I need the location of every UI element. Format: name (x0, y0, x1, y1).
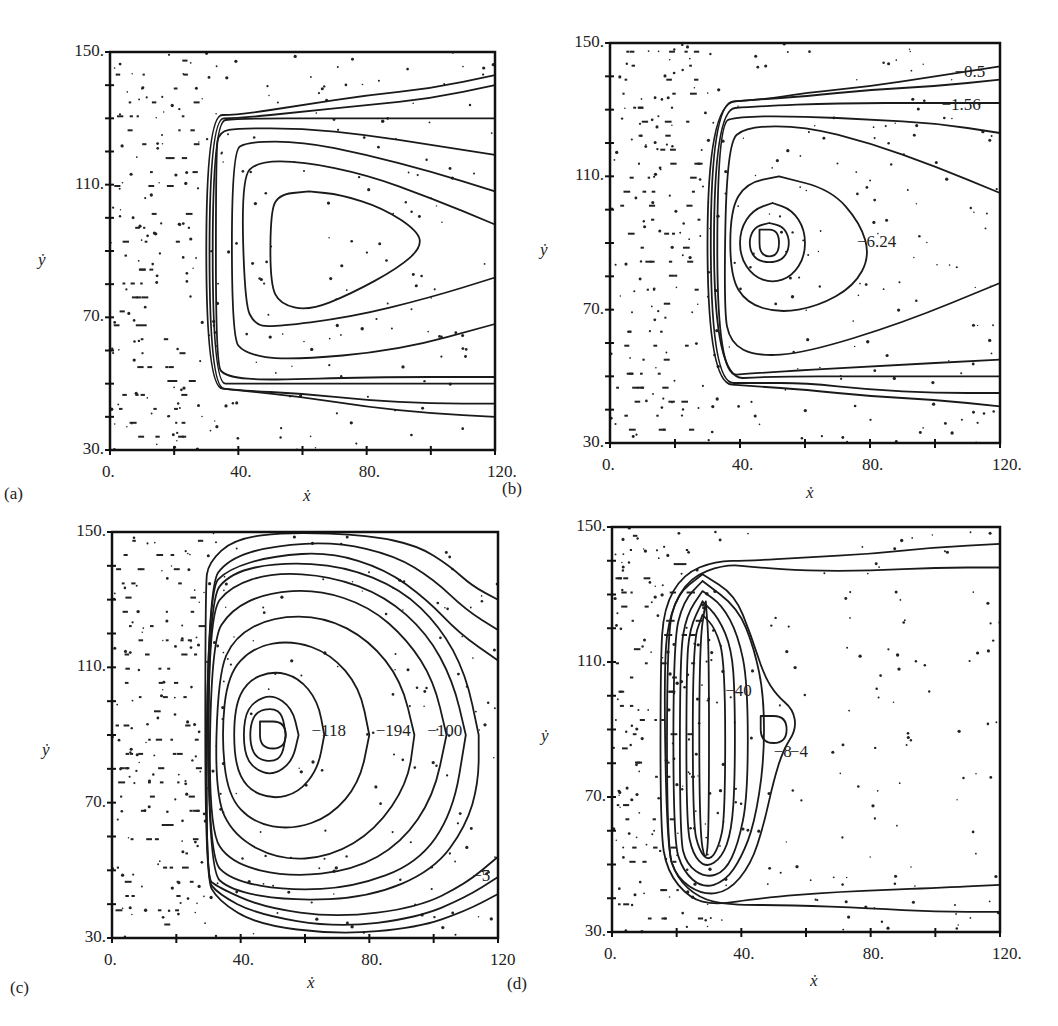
contour-line (760, 230, 780, 257)
x-tick-label: 0. (602, 455, 615, 475)
y-axis-title: ẏ (42, 740, 50, 760)
x-tick-label: 40. (733, 944, 754, 964)
x-tick-label: 80. (361, 950, 382, 970)
contour-line (250, 709, 285, 761)
x-axis-title: ẋ (806, 483, 814, 503)
x-axis-title: ẋ (303, 486, 311, 506)
contour-line (223, 643, 369, 828)
chart-panel-a: 0.40.80.120.30.70.110.150.ẋẏ(a) (0, 0, 529, 505)
contour-line (665, 565, 1000, 911)
y-tick-label: 70. (585, 786, 606, 806)
contour-value-label: −1.56 (942, 95, 981, 115)
contour-line (213, 118, 495, 383)
contour-value-label: −4 (790, 742, 808, 762)
y-tick-label: 30. (83, 439, 104, 459)
x-tick-label: 80. (863, 944, 884, 964)
contour-value-label: −100 (427, 721, 462, 741)
contour-plot-svg (0, 505, 529, 1026)
x-axis-title: ẋ (307, 973, 315, 993)
chart-panel-d: 0.40.80.120.30.70.110.150.ẋẏ(d)−40−8−4 (529, 505, 1058, 1026)
y-tick-label: 70. (85, 792, 106, 812)
y-tick-label: 150. (76, 521, 106, 541)
contour-line (260, 722, 286, 749)
x-tick-label: 40. (230, 462, 251, 482)
x-tick-label: 40. (233, 950, 254, 970)
axis-ticks (607, 527, 1000, 937)
x-tick-label: 0. (104, 950, 117, 970)
contour-line (206, 75, 495, 417)
contour-value-label: −118 (311, 721, 345, 741)
chart-panel-c: 0.40.80.12030.70.110.150.ẋẏ(c)−118−194… (0, 505, 529, 1026)
contour-line (730, 176, 867, 311)
x-axis-title: ẋ (810, 971, 818, 991)
x-tick-label: 0. (102, 462, 115, 482)
contour-lines (708, 66, 1001, 406)
contour-line (244, 697, 299, 774)
contour-lines (206, 75, 495, 417)
x-tick-label: 120 (490, 950, 516, 970)
contour-plot-svg (0, 0, 529, 521)
x-tick-label: 80. (359, 462, 380, 482)
y-tick-label: 150. (576, 516, 606, 536)
x-tick-label: 0. (604, 944, 617, 964)
x-tick-label: 120. (992, 455, 1022, 475)
contour-value-label: −0.5 (955, 62, 986, 82)
y-tick-label: 30. (585, 921, 606, 941)
contour-value-label: −40 (725, 681, 752, 701)
contour-line (270, 191, 419, 308)
x-tick-label: 80. (862, 455, 883, 475)
contour-value-label: −194 (376, 721, 411, 741)
y-tick-label: 30. (85, 927, 106, 947)
contour-lines (661, 544, 1001, 912)
y-tick-label: 110. (575, 165, 604, 185)
y-axis-title: ẏ (38, 250, 46, 270)
y-tick-label: 70. (83, 306, 104, 326)
chart-panel-b: 0.40.80.120.30.70.110.150.ẋẏ(b)−0.5−1.… (529, 0, 1058, 505)
panel-label: (c) (10, 978, 29, 998)
y-tick-label: 70. (583, 299, 604, 319)
panel-label: (b) (502, 479, 522, 499)
x-tick-label: 40. (732, 455, 753, 475)
y-tick-label: 30. (583, 432, 604, 452)
y-tick-label: 150. (574, 32, 604, 52)
panel-label: (d) (507, 974, 527, 994)
y-tick-label: 110. (77, 656, 106, 676)
y-tick-label: 110. (577, 651, 606, 671)
contour-value-label: −5 (472, 866, 490, 886)
y-axis-title: ẏ (541, 726, 549, 746)
contour-value-label: −6.24 (857, 232, 896, 252)
contour-line (216, 128, 495, 379)
y-tick-label: 110. (75, 174, 104, 194)
y-tick-label: 150. (74, 41, 104, 61)
contour-line (699, 601, 709, 856)
panel-label: (a) (4, 484, 23, 504)
x-tick-label: 120. (992, 944, 1022, 964)
y-axis-title: ẏ (540, 240, 548, 260)
